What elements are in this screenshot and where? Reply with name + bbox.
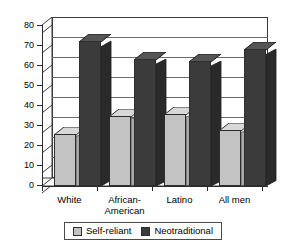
bar-chart: 80 70 60 50 40 30 20 10 0 (0, 0, 284, 247)
y-tick-mark-60 (37, 65, 42, 66)
depth-connector-50 (42, 85, 53, 94)
dark-gray-swatch-icon (141, 227, 150, 236)
y-tick-label-40: 40 (12, 101, 34, 110)
bar-white-self-reliant (54, 134, 76, 186)
bar-side-face (266, 49, 276, 186)
bar-front-face (134, 59, 156, 186)
y-tick-mark-10 (37, 165, 42, 166)
y-tick-mark-30 (37, 125, 42, 126)
y-tick-mark-80 (37, 25, 42, 26)
depth-connector-20 (42, 145, 53, 154)
x-category-label-all-men: All men (207, 194, 262, 205)
x-tick-mark-4 (262, 186, 263, 191)
bar-african-american-neotraditional (134, 59, 156, 186)
bar-front-face (79, 41, 101, 186)
y-tick-mark-20 (37, 145, 42, 146)
bar-front-face (244, 49, 266, 186)
bar-all-men-neotraditional (244, 49, 266, 186)
x-axis-line (42, 186, 268, 187)
y-axis-line (42, 25, 43, 186)
bar-latino-neotraditional (189, 61, 211, 186)
depth-connector-60 (42, 65, 53, 74)
x-category-label-white: White (42, 194, 97, 205)
legend-label-neotraditional: Neotraditional (154, 226, 213, 236)
legend-label-self-reliant: Self-reliant (86, 226, 131, 236)
legend-item-neotraditional: Neotraditional (141, 226, 213, 236)
bar-front-face (54, 134, 76, 186)
plot-area (42, 25, 268, 186)
x-tick-mark-3 (207, 186, 208, 191)
y-tick-label-70: 70 (12, 41, 34, 50)
x-category-label-african-american-line2: American (97, 205, 152, 216)
x-category-label-african-american-line1: African- (97, 194, 152, 205)
y-tick-label-10: 10 (12, 161, 34, 170)
y-tick-label-80: 80 (12, 21, 34, 30)
chart-legend: Self-reliant Neotraditional (64, 222, 222, 240)
x-tick-mark-0 (42, 186, 43, 191)
depth-connector-70 (42, 45, 53, 54)
bar-front-face (164, 114, 186, 186)
y-tick-mark-70 (37, 45, 42, 46)
depth-connector-80 (42, 25, 53, 34)
bar-front-face (109, 116, 131, 186)
legend-item-self-reliant: Self-reliant (73, 226, 131, 236)
x-axis-labels: White African- American Latino All men (42, 192, 268, 222)
y-tick-label-0: 0 (12, 181, 34, 190)
y-tick-mark-40 (37, 105, 42, 106)
bar-latino-self-reliant (164, 114, 186, 186)
bar-white-neotraditional (79, 41, 101, 186)
depth-connector-10 (42, 165, 53, 174)
y-tick-label-20: 20 (12, 141, 34, 150)
light-gray-swatch-icon (73, 227, 82, 236)
y-tick-label-60: 60 (12, 61, 34, 70)
y-tick-label-30: 30 (12, 121, 34, 130)
x-category-label-latino: Latino (152, 194, 207, 205)
depth-connector-40 (42, 105, 53, 114)
y-tick-label-50: 50 (12, 81, 34, 90)
bar-all-men-self-reliant (219, 130, 241, 186)
bar-african-american-self-reliant (109, 116, 131, 186)
x-tick-mark-1 (97, 186, 98, 191)
x-tick-mark-2 (152, 186, 153, 191)
depth-connector-30 (42, 125, 53, 134)
bar-front-face (219, 130, 241, 186)
y-tick-mark-50 (37, 85, 42, 86)
bar-front-face (189, 61, 211, 186)
